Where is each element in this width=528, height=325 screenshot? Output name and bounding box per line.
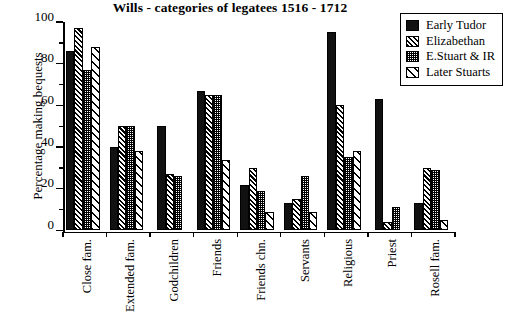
y-tick-major xyxy=(56,188,63,189)
x-category-label: Godchildren xyxy=(167,239,182,301)
bar xyxy=(118,126,126,230)
y-tick-label: 0 xyxy=(48,217,55,230)
bar xyxy=(240,185,248,231)
x-tick xyxy=(193,232,194,237)
y-tick-major xyxy=(56,105,63,106)
bar xyxy=(292,199,300,230)
legend-item: E.Stuart & IR xyxy=(406,49,495,65)
legend-swatch-icon xyxy=(406,20,419,31)
y-tick-label: 60 xyxy=(41,92,54,105)
bar xyxy=(166,174,174,230)
y-tick-label: 40 xyxy=(41,134,54,147)
bar xyxy=(353,151,361,230)
bar xyxy=(392,207,400,230)
bar xyxy=(222,160,230,231)
bar xyxy=(257,191,265,231)
bar xyxy=(414,203,422,230)
x-category-label: Rosell fam. xyxy=(428,239,443,297)
y-tick-minor xyxy=(59,42,63,43)
bar xyxy=(344,157,352,230)
bar xyxy=(440,220,448,230)
bar xyxy=(375,99,383,230)
x-category-label: Priest xyxy=(385,239,400,267)
x-tick xyxy=(62,232,63,237)
bar xyxy=(205,95,213,230)
y-tick-major xyxy=(56,230,63,231)
x-tick xyxy=(237,232,238,237)
y-tick-label: 80 xyxy=(41,51,54,64)
x-category-label: Extended fam. xyxy=(123,239,138,312)
y-tick-label: 20 xyxy=(41,176,54,189)
y-tick-minor xyxy=(59,84,63,85)
chart-title: Wills - categories of legatees 1516 - 17… xyxy=(80,0,380,16)
bar xyxy=(157,126,165,230)
bar xyxy=(327,32,335,230)
x-axis-line xyxy=(63,232,455,234)
y-tick-minor xyxy=(59,126,63,127)
x-category-label: Friends chn. xyxy=(254,239,269,301)
legend-label: Early Tudor xyxy=(426,18,486,33)
legend-swatch-icon xyxy=(406,51,419,62)
x-tick xyxy=(324,232,325,237)
bar xyxy=(126,126,134,230)
chart-legend: Early TudorElizabethanE.Stuart & IRLater… xyxy=(400,13,503,86)
legend-label: E.Stuart & IR xyxy=(426,49,495,64)
legend-label: Elizabethan xyxy=(426,34,485,49)
y-tick-minor xyxy=(59,209,63,210)
bar xyxy=(74,28,82,230)
legend-swatch-icon xyxy=(406,67,419,78)
bar xyxy=(135,151,143,230)
bar xyxy=(336,105,344,230)
y-axis-line xyxy=(63,22,65,233)
x-tick xyxy=(106,232,107,237)
y-tick-label: 100 xyxy=(35,9,55,22)
x-tick xyxy=(367,232,368,237)
bar xyxy=(83,70,91,230)
bar xyxy=(284,203,292,230)
y-tick-major xyxy=(56,21,63,22)
x-tick xyxy=(411,232,412,237)
bar xyxy=(431,170,439,230)
bar xyxy=(110,147,118,230)
bar xyxy=(66,51,74,230)
bar xyxy=(383,222,391,230)
bar xyxy=(91,47,99,230)
legend-item: Early Tudor xyxy=(406,18,495,34)
y-tick-major xyxy=(56,146,63,147)
legend-swatch-icon xyxy=(406,36,419,47)
bar xyxy=(174,176,182,230)
bar xyxy=(197,91,205,231)
legend-item: Later Stuarts xyxy=(406,65,495,81)
bar xyxy=(301,176,309,230)
x-category-label: Friends xyxy=(210,239,225,277)
bar xyxy=(423,168,431,231)
y-tick-major xyxy=(56,63,63,64)
bar xyxy=(249,168,257,231)
x-tick xyxy=(149,232,150,237)
legend-label: Later Stuarts xyxy=(426,65,490,80)
legend-item: Elizabethan xyxy=(406,34,495,50)
plot-area: 020406080100 Close fam.Extended fam.Godc… xyxy=(63,22,455,232)
bar xyxy=(309,212,317,231)
y-tick-minor xyxy=(59,167,63,168)
x-tick xyxy=(454,232,455,237)
bar xyxy=(265,212,273,231)
bar-chart: Wills - categories of legatees 1516 - 17… xyxy=(0,0,528,325)
x-category-label: Servants xyxy=(298,239,313,282)
bar xyxy=(213,95,221,230)
x-category-label: Close fam. xyxy=(80,239,95,293)
x-tick xyxy=(280,232,281,237)
x-category-label: Religious xyxy=(341,239,356,287)
